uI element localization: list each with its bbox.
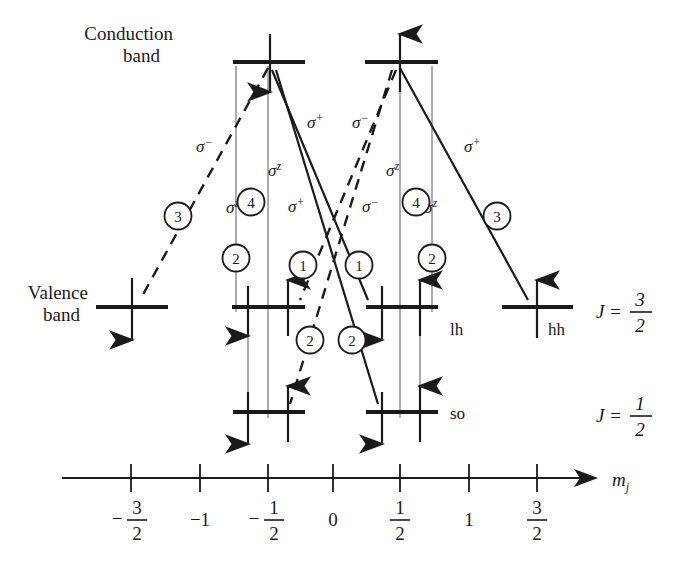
so-label: so bbox=[450, 404, 465, 423]
strength-badge-3-right: 3 bbox=[484, 203, 511, 230]
mj-axis: −32−1−12012132 mj bbox=[62, 464, 630, 544]
axis-tick-label-neg0p5-sign: − bbox=[249, 508, 260, 529]
strength-badge-2-lower-left: 2 bbox=[297, 327, 324, 354]
axis-tick-label-neg1p5-denominator: 2 bbox=[132, 523, 142, 544]
axis-tick-label-neg1: −1 bbox=[190, 509, 210, 530]
axis-tick-label-neg1p5-numerator: 3 bbox=[132, 497, 142, 518]
sigma-z-guide-lines bbox=[236, 66, 432, 418]
sigma-z-label-right-inner: σz bbox=[386, 159, 399, 180]
j-den-one-half: 2 bbox=[635, 419, 645, 440]
j-equals-one-half: = bbox=[609, 405, 622, 426]
axis-tick-label-neg0p5: −12 bbox=[249, 497, 284, 544]
sigma-minus-label-lower: σ− bbox=[362, 195, 379, 216]
strength-badge-1-right: 1 bbox=[346, 252, 373, 279]
sigma-minus-label-left: σ− bbox=[196, 135, 213, 156]
valence-band-label-line2: band bbox=[43, 304, 80, 325]
total-angular-momentum-labels: J = 3 2 J = 1 2 bbox=[596, 289, 652, 440]
strength-badge-2-lower-left-text: 2 bbox=[306, 333, 314, 349]
sigma-plus-label-right: σ+ bbox=[464, 135, 481, 156]
j-label-one-half: J = 1 2 bbox=[596, 393, 652, 440]
strength-badge-2-left-text: 2 bbox=[232, 251, 240, 267]
sigma-plus-label-upper-left: σ+ bbox=[307, 111, 324, 132]
strength-badge-3-left: 3 bbox=[165, 203, 192, 230]
axis-tick-label-0: 0 bbox=[328, 509, 338, 530]
strength-badge-4-left: 4 bbox=[238, 189, 265, 216]
strength-badge-2-left: 2 bbox=[223, 245, 250, 272]
sigma-minus-label-upper-right: σ− bbox=[352, 111, 369, 132]
axis-tick-label-0p5-denominator: 2 bbox=[395, 523, 405, 544]
lh-label: lh bbox=[450, 320, 464, 339]
axis-tick-label-0p5: 12 bbox=[390, 497, 410, 544]
axis-tick-labels: −32−1−12012132 bbox=[112, 497, 547, 544]
j-symbol-three-half: J bbox=[596, 301, 606, 322]
energy-level-diagram: Conduction band Valence band lh hh so σ−… bbox=[0, 0, 677, 579]
strength-badge-1-left: 1 bbox=[290, 252, 317, 279]
valence-band-label-line1: Valence bbox=[28, 282, 88, 303]
strength-badge-1-left-text: 1 bbox=[299, 258, 307, 274]
strength-badge-1-right-text: 1 bbox=[355, 258, 363, 274]
axis-tick-label-neg1p5-sign: − bbox=[112, 508, 123, 529]
valence-band-levels bbox=[96, 278, 573, 340]
axis-tick-label-1p5-numerator: 3 bbox=[532, 497, 542, 518]
axis-title-mj: mj bbox=[612, 469, 630, 494]
axis-tick-label-neg1p5: −32 bbox=[112, 497, 147, 544]
j-symbol-one-half: J bbox=[596, 405, 606, 426]
strength-badge-2-right-text: 2 bbox=[428, 251, 436, 267]
figure-canvas: Conduction band Valence band lh hh so σ−… bbox=[0, 0, 677, 579]
strength-badge-2-lower-right: 2 bbox=[339, 327, 366, 354]
strength-badge-2-right: 2 bbox=[419, 245, 446, 272]
strength-badge-4-right-text: 4 bbox=[412, 195, 420, 211]
sigma-z-label-left-inner: σz bbox=[268, 159, 281, 180]
axis-tick-label-1p5-denominator: 2 bbox=[532, 523, 542, 544]
strength-badge-4-right: 4 bbox=[403, 189, 430, 216]
strength-badge-2-lower-right-text: 2 bbox=[348, 333, 356, 349]
hh-label: hh bbox=[548, 320, 566, 339]
strength-badge-3-left-text: 3 bbox=[174, 209, 182, 225]
axis-tick-label-1: 1 bbox=[464, 509, 474, 530]
axis-tick-label-0p5-numerator: 1 bbox=[395, 497, 405, 518]
j-num-one-half: 1 bbox=[635, 393, 645, 414]
transition-sigma-minus-3 bbox=[140, 68, 268, 300]
strength-badge-4-left-text: 4 bbox=[247, 195, 255, 211]
transition-sigma-plus-3 bbox=[400, 68, 528, 300]
strength-badge-3-right-text: 3 bbox=[493, 209, 501, 225]
axis-tick-label-neg0p5-denominator: 2 bbox=[269, 523, 279, 544]
axis-tick-label-neg0p5-numerator: 1 bbox=[269, 497, 279, 518]
sigma-plus-label-lower: σ+ bbox=[288, 195, 305, 216]
axis-tick-label-1p5: 32 bbox=[527, 497, 547, 544]
j-label-three-half: J = 3 2 bbox=[596, 289, 652, 336]
j-den-three-half: 2 bbox=[635, 315, 645, 336]
j-equals-three-half: = bbox=[609, 301, 622, 322]
j-num-three-half: 3 bbox=[634, 289, 645, 310]
split-off-levels bbox=[233, 386, 438, 444]
conduction-band-label-line1: Conduction bbox=[84, 23, 173, 44]
conduction-band-label-line2: band bbox=[123, 45, 160, 66]
